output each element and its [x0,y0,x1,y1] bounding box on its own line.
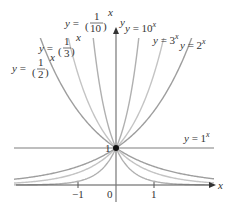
curve-y-3-x [14,0,214,183]
common-point-marker [113,145,119,151]
svg-text:x: x [107,6,113,18]
label-one-third-x: y = ( 1 3 ) x [38,31,81,59]
x-tick-label-1: 1 [151,188,157,200]
svg-text:x: x [75,31,81,43]
svg-text:): ) [71,45,75,58]
svg-text:y =: y = [11,62,26,74]
svg-text:(: ( [58,45,62,58]
x-tick-label-neg1: −1 [72,188,84,200]
curve-y-1-10-x [14,0,214,185]
svg-text:y = 2x: y = 2x [179,37,206,51]
label-2x: y = 2x [179,37,206,51]
label-10x: y = 10x [124,20,157,34]
exponential-functions-diagram: −1 0 1 1 x y y = 10x y = 3x y = 2x y = 1… [0,0,226,212]
curve-y-10-x [14,0,214,185]
svg-text:y = 3x: y = 3x [152,32,179,46]
label-1x: y = 1x [183,130,210,144]
curves-group [14,0,214,185]
svg-text:2: 2 [38,68,44,80]
svg-text:(: ( [32,66,36,79]
y-tick-label-1: 1 [105,142,111,154]
svg-text:1: 1 [94,10,100,22]
svg-text:y = 1x: y = 1x [183,130,210,144]
curve-y-1-3-x [14,0,214,183]
svg-text:10: 10 [90,22,102,34]
label-one-tenth-x: y = ( 1 10 ) x [64,6,113,34]
graph-canvas: −1 0 1 1 x y y = 10x y = 3x y = 2x y = 1… [0,0,226,212]
svg-text:1: 1 [38,56,44,68]
x-axis-label: x [217,179,223,191]
svg-text:3: 3 [64,47,70,59]
y-axis-arrow-icon [113,27,119,34]
svg-text:(: ( [85,20,89,33]
svg-text:x: x [49,51,55,63]
svg-text:1: 1 [64,35,70,47]
svg-text:): ) [103,20,107,33]
origin-label: 0 [107,188,113,200]
svg-text:y = 10x: y = 10x [124,20,157,34]
label-one-half-x: y = ( 1 2 ) x [11,51,55,80]
svg-text:): ) [45,66,49,79]
svg-text:y =: y = [64,17,79,29]
label-3x: y = 3x [152,32,179,46]
